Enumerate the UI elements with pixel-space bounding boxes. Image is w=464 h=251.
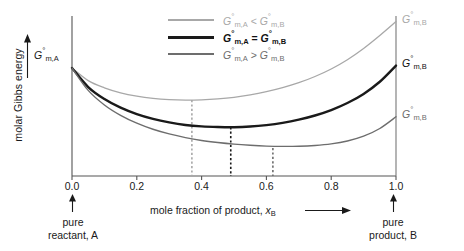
pure-product-line1: pure: [333, 216, 453, 229]
left-intercept-symbol: G: [34, 49, 42, 61]
legend-line-icon: [168, 36, 214, 39]
right-label-mid-symbol: G: [402, 57, 410, 69]
right-label-mid-subscript: m,B: [413, 62, 426, 71]
right-label-mid: G°m,B: [402, 55, 427, 69]
right-label-high: G°m,B: [402, 11, 427, 25]
pure-reactant-line1: pure: [13, 216, 133, 229]
x-tick-label: 0.0: [52, 180, 92, 192]
right-label-low: G°m,B: [402, 106, 427, 120]
x-tick-label: 0.2: [117, 180, 157, 192]
legend-item-label: G°m,A = G°m,B: [223, 31, 286, 43]
pure-reactant-annotation: pure reactant, A: [13, 216, 133, 242]
right-label-high-symbol: G: [402, 13, 410, 25]
x-tick-label: 0.4: [182, 180, 222, 192]
left-intercept-subscript: m,A: [45, 54, 58, 63]
legend-item: G°m,A = G°m,B: [168, 29, 338, 45]
curve-gmagmb: [72, 66, 396, 128]
legend-line-icon: [168, 53, 214, 55]
legend-item-label: G°m,A > G°m,B: [223, 48, 284, 60]
x-tick-label: 0.8: [311, 180, 351, 192]
pure-reactant-line2: reactant, A: [13, 229, 133, 242]
x-axis-arrow-icon: [305, 205, 351, 216]
x-axis-title-subscript: B: [271, 209, 276, 218]
pure-product-arrow-icon: [388, 194, 399, 212]
pure-reactant-arrow-icon: [67, 194, 78, 212]
pure-product-line2: product, B: [333, 229, 453, 242]
minimum-drop-lines: [192, 100, 273, 176]
x-tick-label: 1.0: [376, 180, 416, 192]
right-label-low-subscript: m,B: [413, 113, 426, 122]
x-axis-title-prefix: mole fraction of product,: [150, 204, 266, 216]
x-tick-label: 0.6: [246, 180, 286, 192]
pure-product-annotation: pure product, B: [333, 216, 453, 242]
left-intercept-label: G°m,A: [34, 47, 59, 61]
legend-item: G°m,A > G°m,B: [168, 46, 338, 62]
right-label-high-subscript: m,B: [413, 18, 426, 27]
x-axis-title: mole fraction of product, xB: [150, 204, 276, 216]
chart-legend: G°m,A < G°m,BG°m,A = G°m,BG°m,A > G°m,B: [168, 12, 338, 63]
legend-item: G°m,A < G°m,B: [168, 12, 338, 28]
right-label-low-symbol: G: [402, 108, 410, 120]
legend-item-label: G°m,A < G°m,B: [223, 14, 284, 26]
legend-line-icon: [168, 19, 214, 21]
gibbs-energy-chart: molar Gibbs energy G°m,A G°m,B G°m,B G°m…: [0, 0, 464, 251]
